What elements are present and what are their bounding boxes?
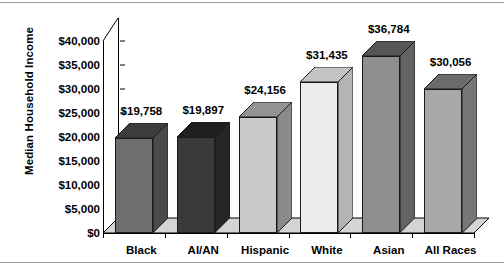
plot-area xyxy=(0,0,504,272)
bar-front-face xyxy=(239,117,277,233)
bar-front-face xyxy=(300,82,338,233)
bar-value-label: $30,056 xyxy=(430,56,472,68)
bar-front-face xyxy=(115,138,153,233)
x-tick-mark xyxy=(474,233,475,238)
bar-value-label: $36,784 xyxy=(368,23,410,35)
x-axis-category-label: All Races xyxy=(425,244,477,256)
bar-front-face xyxy=(177,137,215,233)
x-axis-category-label: White xyxy=(311,244,342,256)
x-axis-category-label: Asian xyxy=(373,244,404,256)
x-tick-mark xyxy=(103,233,104,238)
x-tick-mark xyxy=(165,233,166,238)
bar-black[interactable] xyxy=(115,123,168,233)
bar-value-label: $24,156 xyxy=(244,84,286,96)
x-axis-category-label: Hispanic xyxy=(241,244,289,256)
bar-front-face xyxy=(362,56,400,233)
y-axis-line xyxy=(103,41,104,233)
x-tick-mark xyxy=(412,233,413,238)
bar-hispanic[interactable] xyxy=(239,102,292,233)
bar-value-label: $19,758 xyxy=(121,105,163,117)
bar-all-races[interactable] xyxy=(424,74,477,233)
x-tick-mark xyxy=(350,233,351,238)
bar-value-label: $31,435 xyxy=(306,49,348,61)
x-axis-category-label: Black xyxy=(126,244,157,256)
bar-ai-an[interactable] xyxy=(177,122,230,233)
x-axis-category-label: AI/AN xyxy=(188,244,219,256)
bar-white[interactable] xyxy=(300,67,353,233)
x-tick-mark xyxy=(289,233,290,238)
chart-figure: Median Household Income $0$5,000$10,000$… xyxy=(0,0,504,272)
x-tick-mark xyxy=(227,233,228,238)
bar-front-face xyxy=(424,89,462,233)
bar-value-label: $19,897 xyxy=(182,104,224,116)
bar-asian[interactable] xyxy=(362,41,415,233)
